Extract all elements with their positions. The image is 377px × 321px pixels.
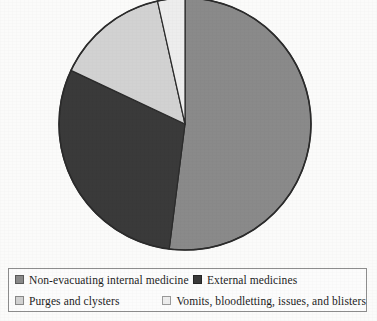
legend-row: Non-evacuating internal medicine Externa… [9, 269, 366, 290]
legend-swatch-icon [15, 275, 24, 284]
legend-item-label: Non-evacuating internal medicine [29, 274, 189, 286]
legend-swatch-icon [15, 296, 24, 305]
legend-item-label: Vomits, bloodletting, issues, and bliste… [176, 295, 366, 307]
legend-row: Purges and clysters Vomits, bloodletting… [9, 290, 366, 311]
legend-item-non-evacuating-internal-medicine[interactable]: Non-evacuating internal medicine [15, 274, 193, 286]
chart-plot-area [0, 0, 377, 262]
legend-item-external-medicines[interactable]: External medicines [193, 274, 297, 286]
legend-item-purges-and-clysters[interactable]: Purges and clysters [15, 295, 162, 307]
legend-swatch-icon [162, 296, 171, 305]
chart-legend: Non-evacuating internal medicine Externa… [8, 268, 367, 312]
legend-item-vomits-bloodletting-issues-and-blisters[interactable]: Vomits, bloodletting, issues, and bliste… [162, 295, 366, 307]
legend-item-label: External medicines [207, 274, 297, 286]
pie-slice[interactable] [169, 0, 311, 250]
legend-swatch-icon [193, 275, 202, 284]
pie-chart-figure: Non-evacuating internal medicine Externa… [0, 0, 377, 321]
pie-chart-svg [0, 0, 377, 262]
legend-item-label: Purges and clysters [29, 295, 119, 307]
